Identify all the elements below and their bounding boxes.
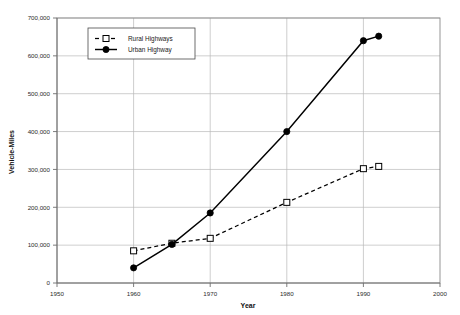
y-axis-title: Vehicle-Miles [8, 130, 15, 174]
y-tick-label: 300,000 [28, 166, 51, 173]
data-point [207, 210, 213, 216]
x-tick-label: 1980 [280, 290, 294, 297]
data-point [360, 38, 366, 44]
legend-marker-open-square [103, 36, 109, 42]
line-chart: 0100,000200,000300,000400,000500,000600,… [0, 0, 460, 315]
data-point [131, 248, 137, 254]
data-point [207, 235, 213, 241]
y-tick-label: 100,000 [28, 241, 51, 248]
legend-label-rural: Rural Highways [128, 35, 173, 43]
data-point [376, 33, 382, 39]
legend-label-urban: Urban Highway [128, 46, 172, 54]
x-tick-label: 1970 [203, 290, 217, 297]
chart-background [0, 0, 460, 315]
y-tick-label: 700,000 [28, 14, 51, 21]
data-point [131, 265, 137, 271]
y-tick-label: 400,000 [28, 128, 51, 135]
data-point [284, 128, 290, 134]
x-tick-label: 1960 [127, 290, 141, 297]
y-tick-label: 500,000 [28, 90, 51, 97]
y-tick-label: 0 [47, 279, 51, 286]
x-axis-title: Year [241, 302, 256, 309]
x-tick-label: 1990 [357, 290, 371, 297]
data-point [284, 199, 290, 205]
data-point [376, 163, 382, 169]
legend-entry-urban[interactable]: Urban Highway [95, 46, 172, 54]
chart-legend: Rural HighwaysUrban Highway [88, 28, 195, 59]
y-tick-label: 200,000 [28, 204, 51, 211]
x-tick-label: 2000 [433, 290, 447, 297]
data-point [360, 166, 366, 172]
legend-marker-filled-circle [103, 46, 109, 52]
x-tick-label: 1950 [50, 290, 64, 297]
chart-container: 0100,000200,000300,000400,000500,000600,… [0, 0, 460, 315]
legend-box [88, 28, 195, 59]
y-tick-label: 600,000 [28, 52, 51, 59]
legend-entry-rural[interactable]: Rural Highways [95, 35, 173, 43]
data-point [169, 241, 175, 247]
